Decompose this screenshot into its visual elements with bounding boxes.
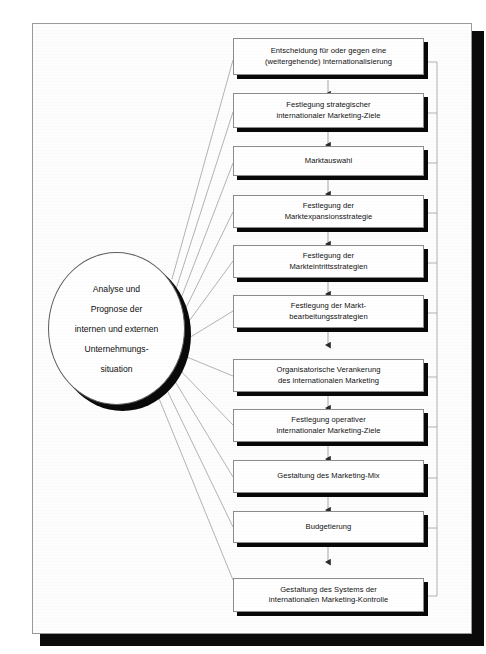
process-step-10[interactable]: Budgetierung [233, 511, 424, 543]
process-step-5[interactable]: Festlegung der Markteintrittsstrategien [233, 245, 424, 278]
analysis-hub-line-4: Unternehmungs- [84, 339, 148, 359]
process-step-2[interactable]: Festlegung strategischer internationaler… [233, 93, 424, 128]
process-step-11[interactable]: Gestaltung des Systems der international… [233, 578, 424, 612]
analysis-hub-line-2: Prognose der [91, 299, 143, 319]
process-step-label: Festlegung der Markteintrittsstrategien [285, 251, 371, 272]
process-step-label: Festlegung operativer internationaler Ma… [272, 415, 384, 436]
process-step-label: Organisatorische Verankerung des interna… [273, 365, 385, 386]
process-step-label: Gestaltung des Marketing-Mix [273, 471, 383, 482]
process-step-9[interactable]: Gestaltung des Marketing-Mix [233, 460, 424, 493]
process-step-body: Gestaltung des Marketing-Mix [233, 460, 424, 493]
process-step-label: Festlegung der Marktexpansionsstrategie [281, 201, 377, 222]
process-step-body: Festlegung strategischer internationaler… [233, 93, 424, 128]
process-step-body: Festlegung der Marktexpansionsstrategie [233, 195, 424, 228]
process-step-4[interactable]: Festlegung der Marktexpansionsstrategie [233, 195, 424, 228]
process-step-label: Festlegung strategischer internationaler… [272, 100, 384, 121]
process-step-1[interactable]: Entscheidung für oder gegen eine (weiter… [233, 38, 424, 75]
analysis-hub-line-5: situation [100, 359, 132, 379]
process-step-label: Marktauswahl [301, 156, 356, 167]
process-step-body: Festlegung der Markteintrittsstrategien [233, 245, 424, 278]
analysis-hub-line-1: Analyse und [93, 279, 140, 299]
process-step-7[interactable]: Organisatorische Verankerung des interna… [233, 359, 424, 392]
process-step-body: Gestaltung des Systems der international… [233, 578, 424, 612]
analysis-hub-body: Analyse und Prognose der internen und ex… [48, 252, 185, 405]
process-step-body: Festlegung der Markt- bearbeitungsstrate… [233, 295, 424, 328]
analysis-hub[interactable]: Analyse und Prognose der internen und ex… [48, 252, 185, 405]
process-step-8[interactable]: Festlegung operativer internationaler Ma… [233, 409, 424, 442]
process-step-body: Budgetierung [233, 511, 424, 543]
analysis-hub-line-3: internen und externen [75, 319, 159, 339]
process-step-body: Festlegung operativer internationaler Ma… [233, 409, 424, 442]
process-step-3[interactable]: Marktauswahl [233, 146, 424, 176]
process-step-6[interactable]: Festlegung der Markt- bearbeitungsstrate… [233, 295, 424, 328]
diagram-canvas: Analyse und Prognose der internen und ex… [0, 0, 486, 654]
process-step-label: Gestaltung des Systems der international… [265, 585, 393, 606]
process-step-body: Entscheidung für oder gegen eine (weiter… [233, 38, 424, 75]
process-step-body: Organisatorische Verankerung des interna… [233, 359, 424, 392]
process-step-label: Entscheidung für oder gegen eine (weiter… [261, 46, 396, 67]
process-step-label: Budgetierung [302, 522, 356, 533]
process-step-label: Festlegung der Markt- bearbeitungsstrate… [285, 301, 371, 322]
process-step-body: Marktauswahl [233, 146, 424, 176]
